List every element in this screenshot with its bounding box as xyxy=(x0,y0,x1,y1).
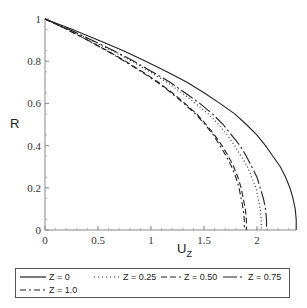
legend-item-z075: Z = 0.75 xyxy=(223,271,281,283)
x-tick-label: 0.5 xyxy=(91,234,105,246)
y-axis-label: R xyxy=(10,116,19,131)
x-axis-label: UZ xyxy=(177,241,192,259)
legend-item-z025: Z = 0.25 xyxy=(94,271,156,283)
legend-item-z050: Z = 0.50 xyxy=(161,271,217,283)
axes: 00.511.5200.20.40.60.81 xyxy=(27,13,296,246)
y-tick-label: 0 xyxy=(36,224,42,236)
y-tick-label: 0.6 xyxy=(27,97,41,109)
long-dash-dot-line-icon xyxy=(223,274,245,280)
series-line xyxy=(45,19,296,230)
legend-item-z0: Z = 0 xyxy=(20,271,70,283)
series-line xyxy=(45,19,246,230)
dotted-line-icon xyxy=(94,274,120,280)
x-tick-label: 2 xyxy=(254,234,260,246)
plot-area: 00.511.5200.20.40.60.81 R UZ xyxy=(0,0,307,268)
series-line xyxy=(45,19,244,230)
y-tick-label: 0.8 xyxy=(27,55,41,67)
y-tick-label: 1 xyxy=(36,13,42,25)
series-line xyxy=(45,19,261,230)
dashed-line-icon xyxy=(161,274,181,280)
solid-line-icon xyxy=(20,274,46,280)
legend-item-z1: Z = 1.0 xyxy=(20,284,77,296)
x-tick-label: 1 xyxy=(148,234,154,246)
y-tick-label: 0.2 xyxy=(27,182,41,194)
legend: Z = 0 Z = 0.25 Z = 0.50 Z = 0.75 Z = 1.0 xyxy=(15,268,290,298)
x-tick-label: 0 xyxy=(42,234,48,246)
series-line xyxy=(45,19,267,230)
curves xyxy=(45,19,296,230)
dash-dot-line-icon xyxy=(20,287,46,293)
y-tick-label: 0.4 xyxy=(27,140,41,152)
x-tick-label: 1.5 xyxy=(197,234,211,246)
